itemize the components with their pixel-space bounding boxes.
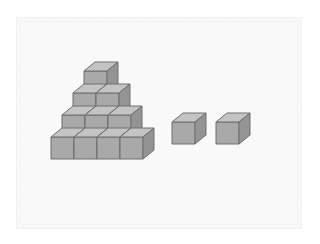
cube-front-face — [172, 122, 195, 144]
cube-scene — [0, 0, 320, 244]
illustration-canvas — [0, 0, 320, 244]
loose-cubes-group — [172, 113, 250, 144]
cube-front-face — [97, 137, 120, 159]
pyramid-group — [51, 62, 154, 159]
cube-front-face — [120, 137, 143, 159]
cube-front-face — [216, 122, 239, 144]
loose-cube-2 — [216, 113, 250, 144]
pyramid-cube-l1-4 — [120, 128, 154, 159]
cube-front-face — [51, 137, 74, 159]
loose-cube-1 — [172, 113, 206, 144]
cube-front-face — [74, 137, 97, 159]
